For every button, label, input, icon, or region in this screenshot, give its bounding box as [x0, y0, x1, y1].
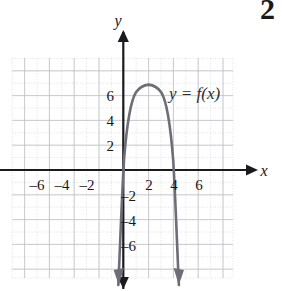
y-axis-label: y [112, 12, 122, 30]
y-tick-label: –2 [120, 188, 136, 204]
x-tick-label: 6 [195, 177, 203, 193]
y-tick-label: –4 [120, 213, 137, 229]
x-tick-label: –4 [54, 177, 71, 193]
x-tick-label: 2 [145, 177, 153, 193]
coordinate-plane: y x y = f(x) –6 –4 –2 2 4 6 6 4 2 –2 –4 … [0, 0, 282, 291]
y-tick-label: 6 [107, 88, 115, 104]
x-axis-label: x [259, 162, 267, 179]
x-tick-label: 4 [170, 177, 178, 193]
y-tick-label: 2 [107, 138, 115, 154]
curve-label: y = f(x) [167, 84, 220, 103]
x-axis [0, 164, 258, 175]
x-tick-label: –6 [29, 177, 46, 193]
math-figure: 2 [0, 0, 282, 291]
y-tick-label: –6 [120, 238, 137, 254]
x-tick-label: –2 [79, 177, 95, 193]
y-tick-label: 4 [107, 113, 115, 129]
